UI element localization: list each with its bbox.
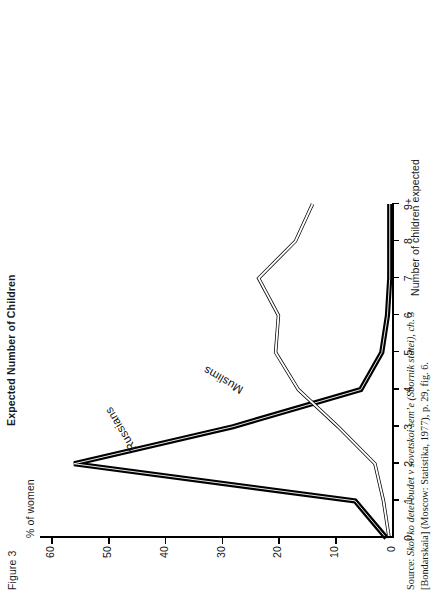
x-tick [392,240,399,241]
source-citation: Source: Skolʼko detei budet v sovetskoi … [404,192,432,590]
figure-panel: Figure 3 Expected Number of Children % o… [0,0,448,596]
series-line-russians-core [74,204,390,538]
plot-area: Russians Muslims [40,204,392,538]
y-tick [51,538,52,544]
y-tick-label: 50 [101,546,113,574]
source-prefix: Source: [405,559,416,590]
x-tick [392,425,399,426]
y-axis-line [40,536,393,538]
source-line-1: Skolʼko detei budet v sovetskoi semʼe (S… [405,311,416,555]
x-tick [392,277,399,278]
source-line-2: [Bondarskaia] (Moscow: Statistika, 1977)… [419,362,430,590]
series-line-russians [74,204,390,538]
x-tick [392,351,399,352]
y-tick [165,538,166,544]
x-tick [392,462,399,463]
y-tick-label: 40 [158,546,170,574]
y-tick [108,538,109,544]
rotated-page-wrapper: Figure 3 Expected Number of Children % o… [0,0,448,596]
y-tick [278,538,279,544]
y-tick-label: 60 [44,546,56,574]
y-tick-label: 30 [215,546,227,574]
y-tick [222,538,223,544]
figure-number: Figure 3 [6,551,18,590]
figure-title: Expected Number of Children [5,274,17,426]
y-tick [335,538,336,544]
y-axis-caption: % of women [24,479,36,538]
x-axis-line [392,203,394,538]
y-tick-label: 0 [385,546,397,574]
y-tick-label: 20 [271,546,283,574]
x-tick [392,314,399,315]
x-tick [392,500,399,501]
x-tick [392,388,399,389]
y-tick-label: 10 [328,546,340,574]
x-tick [392,203,399,204]
